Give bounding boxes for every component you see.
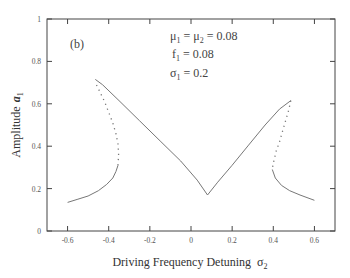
y-tick-label: 0.8 xyxy=(32,57,42,66)
curve-stable-left-lower xyxy=(68,165,118,202)
x-axis-title: Driving Frequency Detuningσ2 xyxy=(112,255,267,271)
annotation-f: f1 = 0.08 xyxy=(172,47,214,63)
curves xyxy=(68,79,315,202)
y-axis-title: Amplitudea1 xyxy=(9,92,25,157)
curve-unstable-left xyxy=(95,83,118,166)
curve-unstable-right xyxy=(272,101,291,170)
x-tick-label: -0.6 xyxy=(62,236,74,245)
y-tick-label: 1 xyxy=(37,15,41,24)
annotation-sigma: σ1 = 0.2 xyxy=(170,66,208,82)
annotation-mu: μ1 = μ2 = 0.08 xyxy=(170,29,237,45)
annotation-block: μ1 = μ2 = 0.08 f1 = 0.08 σ1 = 0.2 xyxy=(170,29,237,82)
chart: -0.6-0.4-0.200.20.40.6 00.20.40.60.81 (b… xyxy=(0,0,350,278)
x-tick-label: 0.4 xyxy=(269,236,279,245)
y-tick-label: 0.6 xyxy=(32,100,42,109)
x-tick-label: 0.6 xyxy=(310,236,320,245)
x-tick-label: 0.2 xyxy=(227,236,237,245)
x-tick-label: 0 xyxy=(189,236,193,245)
y-tick-label: 0.2 xyxy=(32,185,42,194)
x-tick-label: -0.2 xyxy=(144,236,156,245)
curve-stable-right-lower xyxy=(272,170,314,201)
y-tick-label: 0.4 xyxy=(32,142,42,151)
x-tick-label: -0.4 xyxy=(103,236,115,245)
curve-stable-center xyxy=(95,79,290,195)
y-tick-label: 0 xyxy=(37,227,41,236)
panel-label: (b) xyxy=(70,37,84,51)
